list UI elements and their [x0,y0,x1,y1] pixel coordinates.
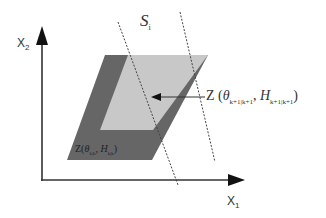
zlabel2-suffix: ) [114,143,117,154]
zlabel-suffix: ) [293,88,298,103]
y-axis-label-text: X [17,36,25,50]
strip-label-sub: i [149,23,151,32]
y-axis-label: X2 [17,37,29,52]
x-axis-label-sub: 1 [235,201,239,210]
zonotope-current-label: Z(θk|k, Hk|k) [75,144,117,156]
strip-label-symbol: S [140,11,149,30]
y-axis-label-sub: 2 [25,43,29,52]
y-axis-arrow-icon [36,26,48,45]
zonotope-next-label: Z (θk+1|k+1, Hk+1|k+1) [206,89,298,106]
diagram-canvas [0,0,326,218]
x-axis-label-text: X [227,194,235,208]
zlabel-h-sub: k+1|k+1 [270,98,293,106]
zlabel-theta: θ [223,88,230,103]
zlabel-theta-sub: k+1|k+1 [230,98,253,106]
zlabel-h: H [260,88,270,103]
strip-label: Si [140,12,151,32]
x-axis-arrow-icon [228,174,245,186]
x-axis-label: X1 [227,195,239,210]
zlabel-sep: , [253,88,260,103]
zlabel-prefix: Z ( [206,88,223,103]
zlabel2-h: H [100,143,107,154]
